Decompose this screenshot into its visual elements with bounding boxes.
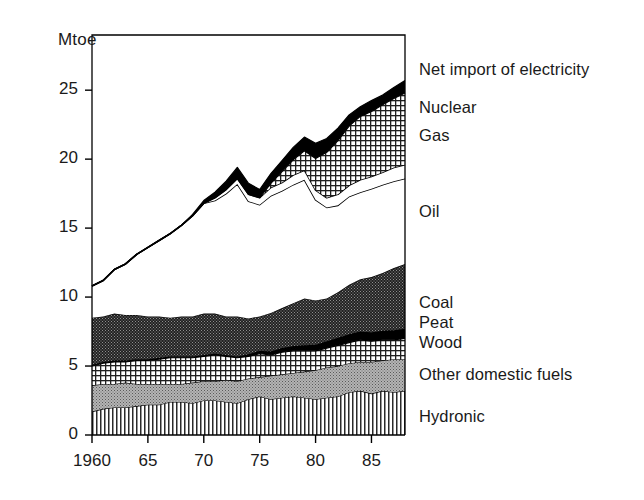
legend-label-hydronic: Hydronic xyxy=(419,407,485,426)
legend-label-peat: Peat xyxy=(419,313,453,332)
y-tick-label: 10 xyxy=(34,286,78,306)
y-tick-label: 0 xyxy=(34,424,78,444)
legend-label-nuclear: Nuclear xyxy=(419,98,477,117)
y-tick-label: 15 xyxy=(34,217,78,237)
legend-label-other-domestic-fuels: Other domestic fuels xyxy=(419,365,572,384)
chart-figure: Mtoe xyxy=(0,0,644,500)
area-layers xyxy=(92,81,405,435)
y-axis-unit-label: Mtoe xyxy=(58,30,97,50)
y-tick-label: 5 xyxy=(34,355,78,375)
y-tick-label: 20 xyxy=(34,148,78,168)
legend-label-coal: Coal xyxy=(419,293,453,312)
y-tick-label: 25 xyxy=(34,79,78,99)
legend-label-oil: Oil xyxy=(419,202,439,221)
x-tick-label: 85 xyxy=(336,451,406,471)
legend-label-net-import-of-electricity: Net import of electricity xyxy=(419,60,589,79)
legend-label-wood: Wood xyxy=(419,333,462,352)
legend-label-gas: Gas xyxy=(419,126,450,145)
